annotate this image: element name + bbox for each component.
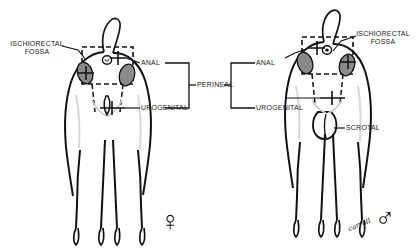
male-symbol: ♂ xyxy=(375,205,395,232)
anus-left xyxy=(102,56,111,64)
female-symbol: ♀ xyxy=(160,208,180,235)
label-urogenital-left: UROGENITAL xyxy=(141,104,188,112)
hind-leg-right-b xyxy=(333,134,337,220)
bracket-left xyxy=(165,63,189,108)
label-anal-right: ANAL xyxy=(256,59,275,67)
ischiorectal-fossa-right-a xyxy=(294,50,315,76)
label-line-2: FOSSA xyxy=(25,48,50,55)
hoof-left-b xyxy=(99,228,104,245)
vulva-left xyxy=(104,96,110,115)
tail-right xyxy=(323,10,340,44)
diagram-canvas: ISCHIORECTAL FOSSA ANAL UROGENITAL PERIN… xyxy=(0,0,419,250)
ischiorectal-fossa-right-b xyxy=(337,52,357,77)
hoof-right-a xyxy=(294,220,299,237)
label-urogenital-right: UROGENITAL xyxy=(256,104,303,112)
hoof-right-b xyxy=(335,220,340,237)
shading-right xyxy=(296,86,299,139)
hoof-left-a xyxy=(74,228,79,245)
bracket-right xyxy=(231,63,255,108)
female-animal-figure xyxy=(65,19,151,245)
label-ischiorectal-fossa-left: ISCHIORECTAL FOSSA xyxy=(6,40,68,56)
label-ischiorectal-fossa-right: ISCHIORECTAL FOSSA xyxy=(350,30,416,46)
tail-left xyxy=(103,19,120,53)
hind-leg-right-a xyxy=(296,142,300,220)
label-line-1: ISCHIORECTAL xyxy=(10,40,64,47)
label-anal-left: ANAL xyxy=(141,59,160,67)
label-line-1: ISCHIORECTAL xyxy=(356,30,410,37)
label-scrotal: SCROTAL xyxy=(346,124,380,132)
label-perineal: PERINEAL xyxy=(197,81,233,89)
urogenital-corridor-right xyxy=(312,74,343,104)
label-line-2: FOSSA xyxy=(371,38,396,45)
